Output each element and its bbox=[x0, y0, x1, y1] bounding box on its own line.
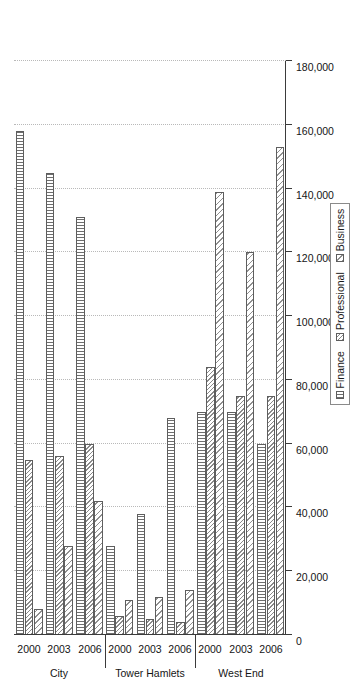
category-group-label-tower-hamlets: Tower Hamlets bbox=[115, 667, 184, 679]
category-year-label: 2006 bbox=[259, 643, 282, 655]
category-axis: 200020032006200020032006200020032006City… bbox=[0, 0, 355, 691]
category-year-label: 2003 bbox=[48, 643, 71, 655]
category-year-label: 2000 bbox=[17, 643, 40, 655]
legend-label: Finance bbox=[334, 351, 346, 388]
category-group-label-city: City bbox=[50, 667, 68, 679]
category-year-label: 2000 bbox=[108, 643, 131, 655]
category-year-label: 2006 bbox=[78, 643, 101, 655]
legend-label: Business bbox=[334, 209, 346, 252]
category-group-separator bbox=[195, 635, 196, 668]
legend-item-professional: Professional bbox=[334, 272, 346, 341]
legend-item-business: Business bbox=[334, 209, 346, 263]
category-year-label: 2003 bbox=[138, 643, 161, 655]
category-year-label: 2006 bbox=[169, 643, 192, 655]
chart-legend: FinanceProfessionalBusiness bbox=[330, 203, 350, 406]
category-group-label-west-end: West End bbox=[218, 667, 263, 679]
category-year-label: 2003 bbox=[229, 643, 252, 655]
legend-swatch-finance-icon bbox=[336, 391, 344, 399]
legend-swatch-professional-icon bbox=[336, 333, 344, 341]
legend-swatch-business-icon bbox=[336, 254, 344, 262]
legend-item-finance: Finance bbox=[334, 351, 346, 399]
category-year-label: 2000 bbox=[199, 643, 222, 655]
chart-page: 180,000160,000140,000120,000100,00080,00… bbox=[0, 0, 355, 691]
category-group-separator bbox=[105, 635, 106, 668]
chart-stage: 180,000160,000140,000120,000100,00080,00… bbox=[0, 0, 355, 691]
legend-label: Professional bbox=[334, 272, 346, 330]
